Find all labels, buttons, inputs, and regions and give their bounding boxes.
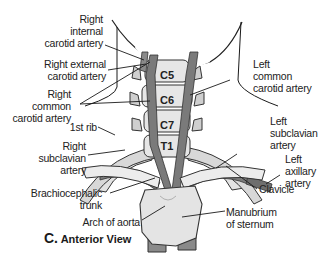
label-right-external-carotid: Right external carotid artery xyxy=(44,58,106,82)
label-brachiocephalic-trunk: Brachiocephalic trunk xyxy=(31,187,102,211)
vertebra-c5: C5 xyxy=(152,69,182,81)
label-arch-of-aorta: Arch of aorta xyxy=(82,216,140,228)
label-clavicle: Clavicle xyxy=(259,183,294,195)
label-left-common-carotid: Left common carotid artery xyxy=(253,58,311,94)
vertebra-c7: C7 xyxy=(152,119,182,131)
label-first-rib: 1st rib xyxy=(70,121,97,133)
vertebra-c6: C6 xyxy=(152,94,182,106)
caption-letter: C. xyxy=(44,230,58,246)
vertebra-t1: T1 xyxy=(152,140,182,152)
figure-caption: C. Anterior View xyxy=(44,230,131,246)
jaw-outline xyxy=(112,20,242,66)
label-left-subclavian: Left subclavian artery xyxy=(270,115,318,151)
label-manubrium: Manubrium of sternum xyxy=(226,206,277,230)
label-right-common-carotid: Right common carotid artery xyxy=(13,88,71,124)
caption-text: Anterior View xyxy=(61,233,132,245)
label-right-subclavian: Right subclavian artery xyxy=(38,140,86,176)
label-right-internal-carotid: Right internal carotid artery xyxy=(45,13,103,49)
